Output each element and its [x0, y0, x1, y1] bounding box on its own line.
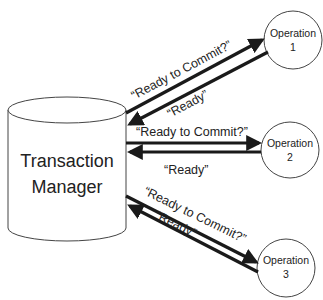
operation-2-number: 2 [287, 151, 293, 163]
operation-2-label: Operation [267, 137, 313, 149]
label-commit-operation-1: “Ready to Commit?” [129, 38, 234, 103]
operation-3-label: Operation [263, 254, 309, 266]
operation-3-number: 3 [283, 268, 289, 280]
transaction-manager-label-line2: Manager [31, 177, 102, 197]
label-commit-operation-2: “Ready to Commit?” [136, 125, 248, 139]
operation-1-label: Operation [270, 27, 316, 39]
operation-1-node: Operation 1 [264, 11, 322, 69]
transaction-manager-cylinder: Transaction Manager [8, 97, 126, 241]
operation-3-node: Operation 3 [257, 239, 315, 297]
label-ready-operation-2: “Ready” [164, 163, 208, 177]
transaction-manager-label-line1: Transaction [20, 151, 113, 171]
operation-1-number: 1 [290, 41, 296, 53]
operation-2-node: Operation 2 [261, 122, 319, 178]
two-phase-commit-diagram: Transaction Manager Operation 1 Operatio… [0, 0, 323, 300]
